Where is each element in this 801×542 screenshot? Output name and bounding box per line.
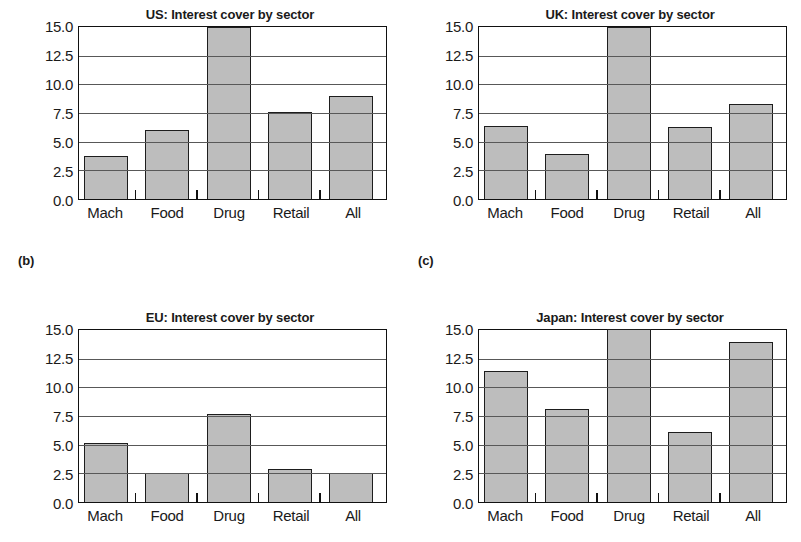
y-tick-label: 12.5 — [45, 350, 73, 367]
y-tick-label: 0.0 — [53, 495, 73, 512]
x-tick-label: All — [345, 204, 361, 221]
y-axis-tick-labels: 0.02.55.07.510.012.515.0 — [22, 329, 73, 503]
gridline — [479, 56, 786, 57]
y-tick-label: 15.0 — [45, 321, 73, 338]
chart-japan: Japan: Interest cover by sector 0.02.55.… — [422, 307, 788, 542]
y-axis-tick-labels: 0.02.55.07.510.012.515.0 — [422, 329, 473, 503]
gridline — [479, 473, 786, 474]
x-tickmark — [135, 190, 136, 199]
y-tick-label: 0.0 — [453, 192, 473, 209]
x-tick-label: Retail — [273, 204, 310, 221]
plot-frame — [78, 26, 387, 200]
y-tick-label: 7.5 — [453, 408, 473, 425]
bar — [729, 342, 773, 502]
x-tick-label: Mach — [487, 507, 522, 524]
x-tickmark — [535, 190, 536, 199]
chart-title: US: Interest cover by sector — [22, 4, 388, 26]
x-tickmark — [596, 190, 597, 199]
x-tick-label: Retail — [673, 507, 710, 524]
figure-panel-grid: US: Interest cover by sector 0.02.55.07.… — [0, 0, 801, 542]
bar — [145, 473, 189, 502]
y-tick-label: 7.5 — [53, 408, 73, 425]
gridline — [479, 416, 786, 417]
gridline — [79, 445, 386, 446]
x-tick-label: Drug — [213, 204, 244, 221]
y-tick-label: 2.5 — [453, 466, 473, 483]
bar — [668, 432, 712, 502]
y-tick-label: 15.0 — [445, 321, 473, 338]
x-tick-label: Food — [551, 204, 584, 221]
x-tick-label: Drug — [613, 204, 644, 221]
x-tick-label: Drug — [613, 507, 644, 524]
chart-title: EU: Interest cover by sector — [22, 307, 388, 329]
x-tick-label: Retail — [673, 204, 710, 221]
chart-title: Japan: Interest cover by sector — [422, 307, 788, 329]
bar — [268, 469, 312, 502]
bar — [207, 414, 251, 502]
bar — [268, 112, 312, 199]
bar — [729, 104, 773, 199]
plot-frame — [478, 26, 787, 200]
panel-cell-bottom-left: EU: Interest cover by sector 0.02.55.07.… — [0, 271, 400, 542]
x-tick-label: Drug — [213, 507, 244, 524]
plot-area-wrap: 0.02.55.07.510.012.515.0 — [78, 329, 387, 503]
y-tick-label: 15.0 — [45, 18, 73, 35]
x-axis-tick-labels: MachFoodDrugRetailAll — [478, 200, 788, 230]
y-tick-label: 12.5 — [45, 47, 73, 64]
y-tick-label: 10.0 — [45, 379, 73, 396]
x-axis-tick-labels: MachFoodDrugRetailAll — [78, 200, 388, 230]
x-tickmark — [196, 190, 197, 199]
y-tick-label: 5.0 — [53, 437, 73, 454]
y-tick-label: 2.5 — [453, 163, 473, 180]
y-tick-label: 15.0 — [445, 18, 473, 35]
y-tick-label: 0.0 — [53, 192, 73, 209]
y-tick-label: 7.5 — [53, 105, 73, 122]
plot-area-wrap: 0.02.55.07.510.012.515.0 — [78, 26, 387, 200]
bar — [84, 443, 128, 502]
bar — [329, 96, 373, 199]
y-tick-label: 7.5 — [453, 105, 473, 122]
plot-frame — [478, 329, 787, 503]
chart-us: US: Interest cover by sector 0.02.55.07.… — [22, 4, 388, 242]
y-tick-label: 5.0 — [453, 437, 473, 454]
chart-uk: UK: Interest cover by sector 0.02.55.07.… — [422, 4, 788, 242]
gridline — [79, 56, 386, 57]
x-tickmark — [258, 190, 259, 199]
x-tickmark — [535, 493, 536, 502]
x-axis-tick-labels: MachFoodDrugRetailAll — [78, 503, 388, 533]
y-tick-label: 2.5 — [53, 466, 73, 483]
x-tickmark — [258, 493, 259, 502]
x-tick-label: Mach — [487, 204, 522, 221]
bar — [668, 127, 712, 199]
bar — [484, 126, 528, 199]
gridline — [479, 170, 786, 171]
panel-letter-c: (c) — [418, 253, 434, 268]
gridline — [79, 84, 386, 85]
x-tick-label: Food — [151, 204, 184, 221]
bar — [145, 130, 189, 199]
gridline — [479, 142, 786, 143]
x-tickmark — [596, 493, 597, 502]
bar — [545, 154, 589, 199]
gridline — [479, 359, 786, 360]
chart-eu: EU: Interest cover by sector 0.02.55.07.… — [22, 307, 388, 542]
x-tickmark — [319, 493, 320, 502]
x-tickmark — [196, 493, 197, 502]
bar — [484, 371, 528, 502]
gridline — [79, 113, 386, 114]
x-tick-label: All — [745, 507, 761, 524]
plot-area-wrap: 0.02.55.07.510.012.515.0 — [478, 26, 787, 200]
bar — [329, 473, 373, 502]
bar — [84, 156, 128, 199]
panel-cell-bottom-right: Japan: Interest cover by sector 0.02.55.… — [400, 271, 801, 542]
x-tick-label: Mach — [87, 507, 122, 524]
y-tick-label: 10.0 — [445, 76, 473, 93]
x-tickmark — [719, 190, 720, 199]
gridline — [479, 84, 786, 85]
plot-area-wrap: 0.02.55.07.510.012.515.0 — [478, 329, 787, 503]
panel-cell-top-left: US: Interest cover by sector 0.02.55.07.… — [0, 0, 400, 271]
gridline — [79, 473, 386, 474]
gridline — [79, 170, 386, 171]
x-tick-label: Retail — [273, 507, 310, 524]
gridline — [479, 387, 786, 388]
